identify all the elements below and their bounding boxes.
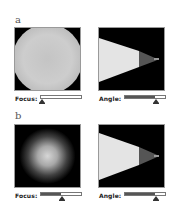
cone-image <box>99 28 164 90</box>
angle-label-b: Angle: <box>99 192 121 199</box>
focus-preview-b <box>14 124 81 188</box>
figure-label-a: a <box>15 15 21 25</box>
blurred-disc-image <box>15 125 80 187</box>
focus-label-b: Focus: <box>15 192 37 199</box>
focus-slider-thumb-a[interactable] <box>39 99 45 103</box>
angle-slider-a[interactable] <box>124 95 166 99</box>
cone-image <box>99 125 164 187</box>
angle-slider-thumb-a[interactable] <box>153 99 159 103</box>
angle-preview-a <box>98 27 165 91</box>
angle-slider-fill-a <box>125 96 155 98</box>
angle-preview-b <box>98 124 165 188</box>
focus-slider-a[interactable] <box>40 95 82 99</box>
focus-label-a: Focus: <box>15 95 37 102</box>
figure-label-b: b <box>15 111 21 121</box>
focus-slider-thumb-b[interactable] <box>59 196 65 200</box>
angle-label-a: Angle: <box>99 95 121 102</box>
angle-slider-b[interactable] <box>124 192 166 196</box>
angle-slider-fill-b <box>125 193 155 195</box>
focus-slider-fill-b <box>41 193 61 195</box>
sharp-disc-image <box>15 28 80 90</box>
angle-slider-thumb-b[interactable] <box>153 196 159 200</box>
focus-preview-a <box>14 27 81 91</box>
